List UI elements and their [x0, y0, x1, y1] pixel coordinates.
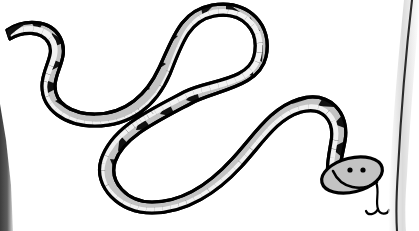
right-eye: [360, 167, 365, 172]
scanned-page: Snake A long S-curved snake drawn in bla…: [0, 0, 419, 231]
left-eye: [347, 167, 352, 172]
snake-illustration: [0, 0, 419, 231]
